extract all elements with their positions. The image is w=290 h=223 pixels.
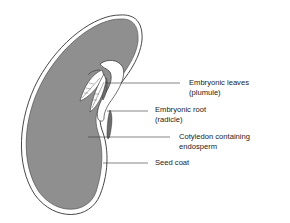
label-radicle: Embryonic root (radicle) (155, 105, 206, 124)
seed-diagram: Embryonic leaves (plumule) Embryonic roo… (0, 0, 290, 223)
label-cotyledon-line2: endosperm (179, 142, 250, 152)
label-radicle-line1: Embryonic root (155, 105, 206, 115)
label-plumule-line2: (plumule) (189, 88, 249, 98)
label-plumule-line1: Embryonic leaves (189, 78, 249, 88)
label-radicle-line2: (radicle) (155, 115, 206, 125)
label-cotyledon: Cotyledon containing endosperm (179, 132, 250, 151)
cotyledon-shape (26, 19, 138, 209)
label-seed-coat-line1: Seed coat (155, 158, 189, 168)
label-plumule: Embryonic leaves (plumule) (189, 78, 249, 97)
label-cotyledon-line1: Cotyledon containing (179, 132, 250, 142)
seed-illustration (0, 0, 290, 223)
radicle-shape (107, 110, 112, 139)
label-seed-coat: Seed coat (155, 158, 189, 168)
